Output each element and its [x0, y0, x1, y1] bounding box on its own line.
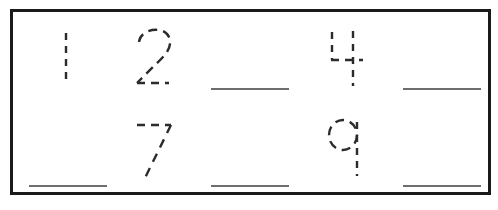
worksheet-row-1: 1 2 4	[13, 12, 488, 105]
worksheet-cell-r2c1[interactable]	[21, 102, 111, 195]
worksheet-cell-r2c4[interactable]: 9	[301, 102, 391, 195]
blank-line-value	[394, 11, 395, 12]
worksheet-cell-r2c5[interactable]	[395, 102, 485, 195]
blank-line-value	[202, 11, 203, 12]
blank-line-value	[202, 101, 203, 102]
worksheet-frame: 1 2 4	[10, 9, 491, 195]
blank-writing-line-icon	[403, 88, 481, 90]
worksheet-cell-r1c5[interactable]	[395, 12, 485, 105]
dashed-digit-7-icon	[111, 102, 201, 195]
blank-line-value	[394, 101, 395, 102]
worksheet-row-2: 7 9	[13, 102, 488, 195]
worksheet-cell-r1c3[interactable]	[203, 12, 293, 105]
blank-writing-line-icon	[403, 185, 481, 187]
worksheet-cell-r2c3[interactable]	[203, 102, 293, 195]
blank-writing-line-icon	[29, 185, 107, 187]
dashed-digit-9-icon	[301, 102, 391, 195]
worksheet-cell-r2c2[interactable]: 7	[111, 102, 201, 195]
worksheet-cell-r1c1[interactable]: 1	[21, 12, 111, 105]
dashed-digit-4-icon	[301, 12, 391, 105]
dashed-digit-1-icon	[21, 12, 111, 105]
dashed-digit-2-icon	[111, 12, 201, 105]
blank-writing-line-icon	[211, 185, 289, 187]
worksheet-cell-r1c2[interactable]: 2	[111, 12, 201, 105]
blank-line-value	[20, 101, 21, 102]
worksheet-cell-r1c4[interactable]: 4	[301, 12, 391, 105]
blank-writing-line-icon	[211, 88, 289, 90]
